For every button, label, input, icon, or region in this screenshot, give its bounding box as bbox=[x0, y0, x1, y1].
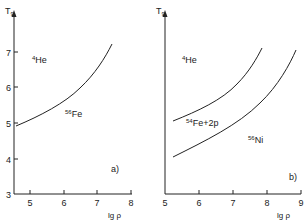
panel-a: T9 7 6 5 4 3 5 6 7 8 lg ρ 4He 56Fe a bbox=[5, 6, 134, 220]
y-tick-a: 5 bbox=[6, 119, 11, 129]
y-tick-a: 3 bbox=[6, 190, 11, 200]
x-axis-label-b: lg ρ bbox=[277, 211, 290, 220]
panel-label-b: b) bbox=[289, 172, 297, 182]
y-tick-a: 6 bbox=[6, 83, 11, 93]
region-label-4he-a: 4He bbox=[32, 55, 47, 65]
x-tick-a: 7 bbox=[94, 198, 99, 208]
x-tick-b: 5 bbox=[162, 198, 167, 208]
x-tick-a: 6 bbox=[61, 198, 66, 208]
y-tick-a: 4 bbox=[6, 155, 11, 165]
y-tick-a: 7 bbox=[6, 48, 11, 58]
region-label-54fe2p-b: 54Fe+2p bbox=[186, 118, 218, 128]
boundary-curve-a bbox=[16, 44, 112, 126]
boundary-curve-lower-b bbox=[173, 50, 296, 157]
x-tick-a: 8 bbox=[128, 198, 133, 208]
panel-label-a: a) bbox=[111, 164, 119, 174]
region-label-4he-b: 4He bbox=[182, 55, 197, 65]
x-tick-a: 5 bbox=[27, 198, 32, 208]
y-axis-label-a: T9 bbox=[5, 6, 15, 17]
panel-b: T9 5 6 7 8 9 lg ρ 4He 54Fe+2p 56Ni b) bbox=[156, 6, 304, 220]
region-label-56fe-a: 56Fe bbox=[65, 109, 82, 119]
y-axis-label-b: T9 bbox=[156, 6, 166, 17]
x-tick-b: 9 bbox=[298, 198, 303, 208]
x-tick-b: 8 bbox=[264, 198, 269, 208]
region-label-56ni-b: 56Ni bbox=[248, 135, 263, 145]
x-tick-b: 6 bbox=[196, 198, 201, 208]
x-tick-b: 7 bbox=[230, 198, 235, 208]
x-axis-label-a: lg ρ bbox=[108, 211, 121, 220]
figure: T9 7 6 5 4 3 5 6 7 8 lg ρ 4He 56Fe a bbox=[0, 0, 306, 223]
